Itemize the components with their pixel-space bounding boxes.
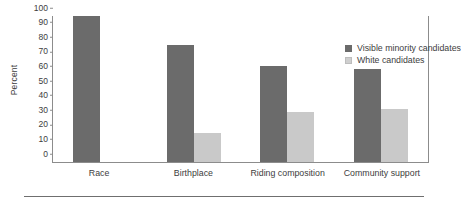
bar-groups (53, 16, 428, 162)
chart-legend: Visible minority candidates White candid… (345, 44, 461, 65)
bar-community-support-white (381, 109, 408, 162)
bottom-divider (24, 196, 424, 197)
x-axis-label-race: Race (52, 166, 146, 184)
x-axis-label-birthplace: Birthplace (146, 166, 240, 184)
x-axis-label-riding-composition: Riding composition (241, 166, 335, 184)
legend-swatch-icon-white (345, 57, 352, 64)
y-axis-tick-70: 70 (39, 47, 53, 56)
legend-swatch-icon-visible-minority (345, 45, 352, 52)
legend-label-white: White candidates (357, 56, 424, 65)
y-axis-tick-50: 50 (39, 76, 53, 85)
y-axis-tick-90: 90 (39, 18, 53, 27)
y-axis-title: Percent (6, 0, 22, 160)
y-axis-tick-60: 60 (39, 62, 53, 71)
bar-race-visible-minority (73, 16, 100, 162)
y-axis-tick-0: 0 (43, 149, 53, 158)
bar-group-birthplace (147, 16, 241, 162)
y-axis-tick-10: 10 (39, 135, 53, 144)
bar-birthplace-white (194, 133, 221, 162)
bar-birthplace-visible-minority (167, 45, 194, 162)
y-axis-tick-100: 100 (34, 3, 53, 12)
legend-item-white: White candidates (345, 56, 461, 65)
bar-group-community-support (334, 16, 428, 162)
y-axis-tick-30: 30 (39, 105, 53, 114)
bar-group-riding-composition (241, 16, 335, 162)
y-axis-title-text: Percent (9, 65, 19, 96)
legend-label-visible-minority: Visible minority candidates (357, 44, 461, 53)
plot-area: 0 10 20 30 40 50 60 70 80 90 100 (52, 16, 429, 163)
bar-riding-composition-white (287, 112, 314, 162)
bar-riding-composition-visible-minority (260, 66, 287, 162)
bar-group-race (53, 16, 147, 162)
y-axis-tick-40: 40 (39, 91, 53, 100)
y-axis-tick-20: 20 (39, 120, 53, 129)
x-axis-labels: Race Birthplace Riding composition Commu… (52, 166, 429, 184)
bar-community-support-visible-minority (354, 69, 381, 162)
y-axis-tick-80: 80 (39, 32, 53, 41)
x-axis-label-community-support: Community support (335, 166, 429, 184)
legend-item-visible-minority: Visible minority candidates (345, 44, 461, 53)
